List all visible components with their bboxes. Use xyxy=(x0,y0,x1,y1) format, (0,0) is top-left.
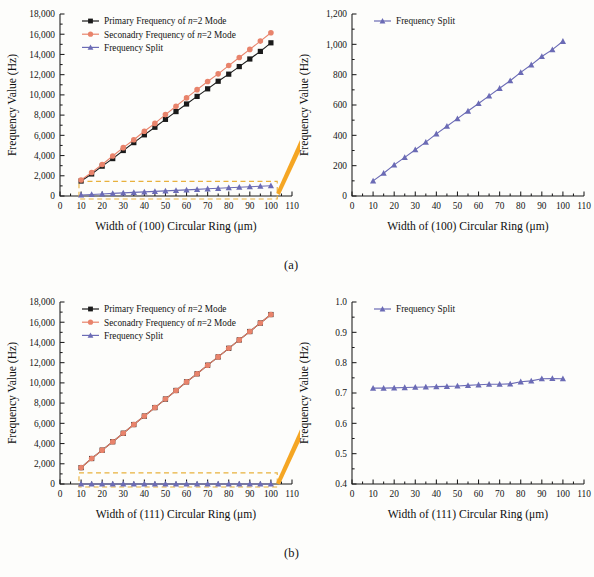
marker-triangle xyxy=(391,162,397,168)
y-tick-label: 400 xyxy=(333,131,347,141)
legend-entry-0: Primary Frequency of n=2 Mode xyxy=(82,16,226,26)
y-tick-label: 8,000 xyxy=(34,398,55,408)
y-axis-title: Frequency Value (Hz) xyxy=(6,54,19,156)
x-tick-label: 20 xyxy=(97,489,107,499)
marker-triangle xyxy=(518,69,524,75)
marker-circle xyxy=(184,95,190,101)
marker-circle xyxy=(120,145,126,151)
marker-square xyxy=(247,56,252,61)
x-tick-label: 80 xyxy=(516,201,526,211)
y-tick-label: 1,200 xyxy=(326,9,347,19)
x-tick-label: 20 xyxy=(97,201,107,211)
marker-triangle xyxy=(454,115,460,121)
marker-triangle xyxy=(497,85,503,91)
x-axis-title: Width of (100) Circular Ring (μm) xyxy=(387,220,548,233)
marker-circle xyxy=(163,396,169,402)
y-tick-label: 0.7 xyxy=(335,388,347,398)
x-tick-label: 30 xyxy=(119,201,129,211)
marker-circle xyxy=(120,430,126,436)
marker-triangle xyxy=(486,93,492,99)
x-tick-label: 30 xyxy=(411,201,421,211)
x-tick-label: 50 xyxy=(161,201,171,211)
y-tick-label: 0.6 xyxy=(335,419,347,429)
marker-circle xyxy=(163,112,169,118)
x-tick-label: 100 xyxy=(556,201,570,211)
marker-circle xyxy=(78,177,84,183)
subcaption-a: (a) xyxy=(284,258,298,273)
marker-circle xyxy=(205,362,211,368)
x-tick-label: 100 xyxy=(264,489,278,499)
y-tick-label: 4,000 xyxy=(34,439,55,449)
marker-circle xyxy=(88,320,93,325)
x-tick-label: 10 xyxy=(368,489,378,499)
marker-circle xyxy=(152,405,158,411)
y-tick-label: 0 xyxy=(342,191,347,201)
marker-triangle xyxy=(412,147,418,153)
x-tick-label: 70 xyxy=(203,201,213,211)
x-tick-label: 80 xyxy=(224,489,234,499)
y-tick-label: 18,000 xyxy=(29,9,55,19)
y-tick-label: 1,000 xyxy=(326,40,347,50)
x-tick-label: 10 xyxy=(76,201,86,211)
chart-a-right-svg: 02004006008001,0001,20001020304050607080… xyxy=(292,0,594,250)
x-tick-label: 90 xyxy=(245,201,255,211)
marker-circle xyxy=(236,337,242,343)
y-tick-label: 200 xyxy=(333,161,347,171)
x-tick-label: 10 xyxy=(368,201,378,211)
x-tick-label: 90 xyxy=(245,489,255,499)
marker-circle xyxy=(89,170,95,176)
x-tick-label: 0 xyxy=(350,489,355,499)
legend-label: Seconadry Frequency of n=2 Mode xyxy=(104,318,236,328)
x-tick-label: 30 xyxy=(411,489,421,499)
chart-a-left-svg: 02,0004,0006,0008,00010,00012,00014,0001… xyxy=(0,0,300,250)
x-tick-label: 110 xyxy=(577,201,591,211)
x-axis-title: Width of (111) Circular Ring (μm) xyxy=(96,508,257,521)
marker-circle xyxy=(258,320,264,326)
marker-triangle xyxy=(475,100,481,106)
x-tick-label: 20 xyxy=(389,489,399,499)
subcaption-b: (b) xyxy=(284,546,299,561)
legend-label: Frequency Split xyxy=(396,304,456,314)
marker-square xyxy=(88,307,93,312)
x-tick-label: 40 xyxy=(432,489,442,499)
legend-label: Frequency Split xyxy=(396,16,456,26)
legend-label: Primary Frequency of n=2 Mode xyxy=(104,304,226,314)
marker-circle xyxy=(247,47,253,53)
x-tick-label: 80 xyxy=(224,201,234,211)
legend-entry-2: Frequency Split xyxy=(82,43,164,53)
y-tick-label: 10,000 xyxy=(29,378,55,388)
marker-square xyxy=(205,86,210,91)
marker-square xyxy=(194,94,199,99)
marker-circle xyxy=(194,371,200,377)
y-tick-label: 0 xyxy=(50,479,55,489)
y-axis-title: Frequency Value (Hz) xyxy=(298,54,311,156)
y-tick-label: 4,000 xyxy=(34,151,55,161)
y-tick-label: 14,000 xyxy=(29,50,55,60)
marker-circle xyxy=(142,413,148,419)
legend-label: Primary Frequency of n=2 Mode xyxy=(104,16,226,26)
axis-lines xyxy=(352,14,584,196)
y-tick-label: 16,000 xyxy=(29,318,55,328)
x-tick-label: 100 xyxy=(556,489,570,499)
x-tick-label: 90 xyxy=(537,201,547,211)
x-tick-label: 70 xyxy=(203,489,213,499)
legend-entry-0: Primary Frequency of n=2 Mode xyxy=(82,304,226,314)
x-tick-label: 0 xyxy=(350,201,355,211)
legend-label: Frequency Split xyxy=(104,43,164,53)
legend-entry-1: Seconadry Frequency of n=2 Mode xyxy=(82,318,236,328)
x-tick-label: 40 xyxy=(432,201,442,211)
marker-circle xyxy=(247,329,253,335)
marker-circle xyxy=(110,153,116,159)
marker-square xyxy=(226,72,231,77)
chart-a-left: 02,0004,0006,0008,00010,00012,00014,0001… xyxy=(0,0,300,288)
y-tick-label: 6,000 xyxy=(34,131,55,141)
y-axis-title: Frequency Value (Hz) xyxy=(6,342,19,444)
marker-square xyxy=(173,109,178,114)
marker-square xyxy=(268,40,273,45)
x-tick-label: 40 xyxy=(140,489,150,499)
x-tick-label: 60 xyxy=(182,489,192,499)
marker-circle xyxy=(110,439,116,445)
marker-circle xyxy=(184,379,190,385)
marker-square xyxy=(216,79,221,84)
y-tick-label: 0.4 xyxy=(335,479,347,489)
